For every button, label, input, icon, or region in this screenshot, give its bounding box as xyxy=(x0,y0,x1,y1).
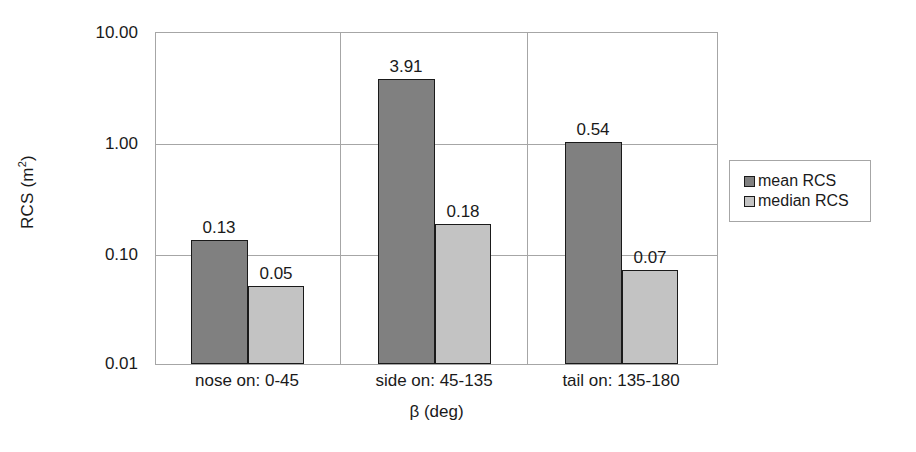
legend-item-mean-rcs: mean RCS xyxy=(730,171,870,191)
y-axis-title: RCS (m2) xyxy=(18,102,38,282)
bar-median-nose-on xyxy=(248,286,304,364)
y-tick-label-10: 10.00 xyxy=(95,23,138,43)
category-separator-2 xyxy=(527,33,528,364)
y-axis-title-close: ) xyxy=(18,155,37,161)
category-label-side-on: side on: 45-135 xyxy=(375,371,492,391)
plot-area: 0.13 0.05 3.91 0.18 0.54 0.07 xyxy=(155,32,718,365)
y-tick-label-1: 1.00 xyxy=(105,134,138,154)
bar-value-label-mean-side-on: 3.91 xyxy=(389,57,422,77)
bar-value-label-median-tail-on: 0.07 xyxy=(633,248,666,268)
category-separator-1 xyxy=(340,33,341,364)
y-axis-title-exponent: 2 xyxy=(16,161,28,167)
y-tick-label-0-01: 0.01 xyxy=(105,354,138,374)
category-label-tail-on: tail on: 135-180 xyxy=(562,371,679,391)
y-tick-label-0-10: 0.10 xyxy=(105,245,138,265)
bar-median-tail-on xyxy=(622,270,678,364)
bar-value-label-median-side-on: 0.18 xyxy=(446,202,479,222)
bar-mean-nose-on xyxy=(191,240,248,364)
bar-median-side-on xyxy=(435,224,491,364)
legend-swatch-median-icon xyxy=(744,196,755,207)
bar-value-label-mean-tail-on: 0.54 xyxy=(576,120,609,140)
legend-label-median-rcs: median RCS xyxy=(758,193,849,209)
rcs-bar-chart: RCS (m2) 10.00 1.00 0.10 0.01 0.13 0.05 … xyxy=(0,0,916,452)
gridline-1-00 xyxy=(156,144,717,145)
x-axis-category-labels: nose on: 0-45 side on: 45-135 tail on: 1… xyxy=(155,371,718,397)
y-axis-tick-labels: 10.00 1.00 0.10 0.01 xyxy=(58,0,148,452)
bar-mean-side-on xyxy=(378,79,435,364)
y-axis-title-text: RCS (m xyxy=(18,167,37,229)
legend-item-median-rcs: median RCS xyxy=(730,191,870,211)
legend-swatch-mean-icon xyxy=(744,176,755,187)
chart-legend: mean RCS median RCS xyxy=(729,160,871,222)
bar-mean-tail-on xyxy=(565,142,622,364)
category-label-nose-on: nose on: 0-45 xyxy=(195,371,299,391)
legend-label-mean-rcs: mean RCS xyxy=(758,173,836,189)
x-axis-title: β (deg) xyxy=(155,402,718,422)
bar-value-label-mean-nose-on: 0.13 xyxy=(202,218,235,238)
bar-value-label-median-nose-on: 0.05 xyxy=(259,264,292,284)
